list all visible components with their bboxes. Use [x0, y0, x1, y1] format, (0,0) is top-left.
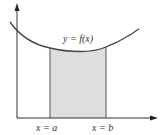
curve-label: y = f(x)	[62, 33, 94, 45]
area-under-curve-diagram: y = f(x) x = a x = b	[0, 0, 167, 135]
shaded-region	[50, 47, 106, 118]
upper-bound-label: x = b	[91, 122, 113, 133]
x-axis-arrow-icon	[150, 116, 158, 121]
lower-bound-label: x = a	[35, 122, 57, 133]
y-axis-arrow-icon	[15, 3, 20, 11]
